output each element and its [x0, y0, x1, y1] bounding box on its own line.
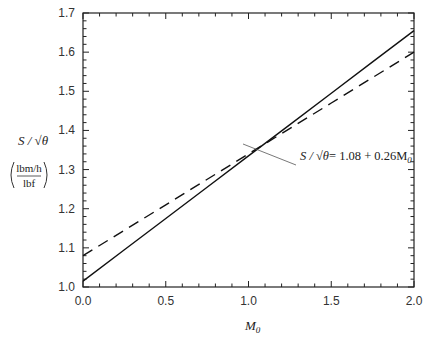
x-tick-label: 0.0 — [75, 294, 92, 308]
x-tick-label: 1.0 — [240, 294, 257, 308]
y-tick-label: 1.1 — [58, 241, 75, 255]
y-axis-units: lbm/h lbf — [11, 162, 47, 189]
chart: 0.00.51.01.52.01.01.11.21.31.41.51.61.7 … — [0, 0, 434, 341]
x-tick-label: 1.5 — [323, 294, 340, 308]
annotation-text: S / √θ= 1.08 + 0.26M0 — [300, 149, 412, 165]
y-tick-label: 1.3 — [58, 163, 75, 177]
x-tick-label: 0.5 — [157, 294, 174, 308]
y-tick-label: 1.4 — [58, 123, 75, 137]
y-tick-label: 1.6 — [58, 45, 75, 59]
x-axis-label: M0 — [244, 318, 261, 335]
left-paren — [11, 162, 14, 188]
right-paren — [44, 162, 47, 188]
y-tick-label: 1.5 — [58, 84, 75, 98]
y-tick-label: 1.0 — [58, 280, 75, 294]
x-tick-label: 2.0 — [406, 294, 423, 308]
y-tick-label: 1.2 — [58, 202, 75, 216]
y-axis-label: S / √θ — [18, 133, 49, 148]
y-tick-label: 1.7 — [58, 6, 75, 20]
y-units-numerator: lbm/h — [16, 162, 42, 174]
y-units-denominator: lbf — [23, 177, 36, 189]
